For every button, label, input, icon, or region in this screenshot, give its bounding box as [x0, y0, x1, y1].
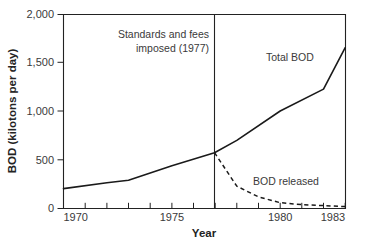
- y-tick-label-2000: 2,000: [26, 8, 54, 20]
- y-tick-label-1000: 1,000: [26, 105, 54, 117]
- y-tick-label-500: 500: [36, 154, 54, 166]
- series-label-total-bod: Total BOD: [266, 51, 314, 63]
- y-axis-title: BOD (kilotons per day): [6, 49, 18, 174]
- standards-annotation-line1: Standards and fees: [118, 28, 209, 40]
- x-tick-label-1980: 1980: [268, 211, 292, 223]
- series-label-bod-released: BOD released: [253, 175, 319, 187]
- series-total-bod: [64, 48, 346, 189]
- x-axis-tick-labels: 1970 1975 1980 1983: [64, 211, 346, 223]
- x-tick-label-1970: 1970: [64, 211, 88, 223]
- bod-line-chart: 0 500 1,000 1,500 2,000 BOD (kilotons pe…: [0, 0, 366, 252]
- y-axis-ticks: [58, 15, 64, 209]
- y-axis-tick-labels: 0 500 1,000 1,500 2,000: [26, 8, 54, 214]
- standards-annotation: Standards and fees imposed (1977): [118, 28, 209, 54]
- x-tick-label-1983: 1983: [321, 211, 345, 223]
- x-axis-ticks: [64, 203, 346, 209]
- x-tick-label-1975: 1975: [160, 211, 184, 223]
- y-tick-label-1500: 1,500: [26, 56, 54, 68]
- x-axis-title: Year: [192, 227, 217, 239]
- standards-annotation-line2: imposed (1977): [136, 42, 209, 54]
- chart-figure: 0 500 1,000 1,500 2,000 BOD (kilotons pe…: [0, 0, 366, 252]
- y-tick-label-0: 0: [48, 202, 54, 214]
